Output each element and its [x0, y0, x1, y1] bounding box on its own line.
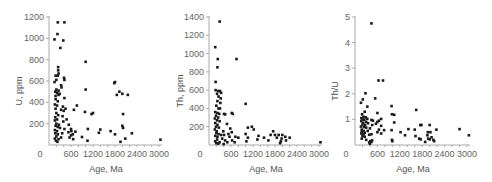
data-point: [216, 66, 219, 69]
data-point: [420, 124, 423, 127]
y-tick-label: 3: [345, 63, 350, 73]
data-point: [245, 140, 248, 143]
data-point: [124, 137, 127, 140]
y-tick-label: 1200: [184, 30, 204, 40]
data-point: [222, 143, 225, 146]
x-tick-label: 600: [63, 149, 78, 159]
data-point: [68, 123, 71, 126]
data-point: [54, 132, 57, 135]
y-tick-label: 200: [29, 119, 44, 129]
data-point: [407, 128, 410, 131]
data-point: [468, 134, 471, 137]
data-point: [368, 133, 371, 136]
data-point: [274, 134, 277, 137]
data-point: [220, 92, 223, 95]
data-point: [272, 130, 275, 133]
data-point: [426, 134, 429, 137]
data-point: [116, 94, 119, 97]
data-point: [361, 113, 364, 116]
data-point: [391, 140, 394, 143]
data-point: [226, 123, 229, 126]
data-point: [380, 132, 383, 135]
data-point: [122, 113, 125, 116]
data-point: [74, 130, 77, 133]
data-point: [222, 130, 225, 133]
data-point: [214, 89, 217, 92]
data-point: [53, 38, 56, 41]
data-point: [57, 114, 60, 117]
x-tick-label: 600: [223, 149, 238, 159]
data-point: [390, 129, 393, 132]
data-point: [382, 79, 385, 82]
x-tick-label: 2400: [435, 149, 455, 159]
data-point: [217, 116, 220, 119]
data-point: [276, 136, 279, 139]
data-point: [68, 136, 71, 139]
data-point: [54, 95, 57, 98]
x-tick-label: 0: [343, 149, 348, 159]
data-point: [216, 119, 219, 122]
data-point: [217, 133, 220, 136]
data-point: [244, 103, 247, 106]
data-point: [61, 115, 64, 118]
data-point: [219, 107, 222, 110]
data-point: [378, 128, 381, 131]
data-point: [288, 136, 291, 139]
x-axis-title: Age, Ma: [396, 164, 430, 174]
data-point: [57, 138, 60, 141]
x-tick-label: 0: [37, 149, 42, 159]
data-point: [121, 93, 124, 96]
data-point: [63, 97, 66, 100]
data-point: [73, 109, 76, 112]
y-tick-label: 1: [345, 114, 350, 124]
data-point: [218, 126, 221, 129]
data-point: [63, 21, 66, 24]
y-tick-label: 2: [345, 89, 350, 99]
data-point: [413, 128, 416, 131]
data-point: [363, 126, 366, 129]
data-point: [232, 113, 235, 116]
data-point: [369, 127, 372, 130]
data-point: [319, 141, 322, 144]
data-point: [391, 113, 394, 116]
data-point: [365, 126, 368, 129]
y-tick-label: 600: [189, 85, 204, 95]
data-point: [399, 131, 402, 134]
data-point: [366, 118, 369, 121]
data-point: [70, 130, 73, 133]
data-point: [363, 136, 366, 139]
y-tick-label: 400: [29, 97, 44, 107]
data-point: [60, 136, 63, 139]
data-point: [57, 74, 60, 77]
data-point: [218, 120, 221, 123]
chart-thu-vs-age: 1234506001200180024003000Age, MaTh/U: [330, 12, 477, 174]
data-point: [371, 124, 374, 127]
x-tick-label: 1800: [265, 149, 285, 159]
data-point: [285, 139, 288, 142]
data-point: [279, 142, 282, 145]
data-point: [60, 109, 63, 112]
data-point: [84, 88, 87, 91]
x-tick-label: 3000: [457, 149, 477, 159]
data-point: [60, 86, 63, 89]
data-point: [84, 111, 87, 114]
data-point: [216, 100, 219, 103]
y-axis-title: U, ppm: [14, 76, 24, 105]
data-point: [224, 113, 227, 116]
data-point: [159, 138, 162, 141]
data-point: [67, 131, 70, 134]
data-point: [235, 58, 238, 61]
data-point: [377, 79, 380, 82]
data-point: [53, 81, 56, 84]
data-point: [383, 129, 386, 132]
y-tick-label: 400: [189, 103, 204, 113]
data-point: [280, 137, 283, 140]
data-point: [228, 135, 231, 138]
data-point: [56, 104, 59, 107]
data-point: [131, 132, 134, 135]
data-point: [63, 128, 66, 131]
y-tick-label: 5: [345, 12, 350, 22]
data-point: [256, 138, 259, 141]
data-point: [370, 22, 373, 25]
data-point: [217, 58, 220, 61]
